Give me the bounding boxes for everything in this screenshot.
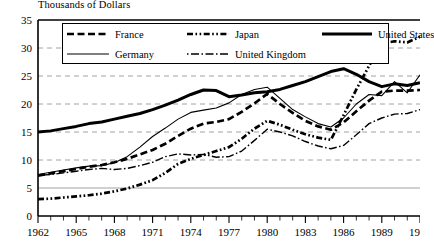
legend-item-united-kingdom[interactable]: United Kingdom <box>186 49 321 60</box>
y-tick-label: 20 <box>21 98 33 110</box>
y-tick-labels: 05101520253035 <box>21 14 33 222</box>
y-tick-label: 35 <box>21 14 33 26</box>
x-tick-label: 1968 <box>103 226 126 238</box>
legend-item-germany[interactable]: Germany <box>66 49 186 60</box>
legend-label-japan: Japan <box>235 29 259 40</box>
x-tick-label: 1986 <box>333 226 356 238</box>
legend-item-united-states[interactable]: United States <box>321 29 434 40</box>
x-tick-labels: 1962196519681971197419771980198319861989… <box>27 226 420 238</box>
japan-key <box>186 29 230 39</box>
united-kingdom-key <box>186 49 230 59</box>
x-tick-label: 1977 <box>218 226 241 238</box>
legend-label-france: France <box>115 29 144 40</box>
y-tick-label: 5 <box>27 182 33 194</box>
legend-item-japan[interactable]: Japan <box>186 29 321 40</box>
x-tick-label: 1962 <box>27 226 49 238</box>
france-key <box>66 29 110 39</box>
legend-label-germany: Germany <box>115 49 154 60</box>
x-tick-marks <box>38 216 420 223</box>
germany-key <box>66 49 110 59</box>
x-tick-label: 1983 <box>294 226 317 238</box>
y-tick-label: 10 <box>21 154 33 166</box>
y-tick-label: 0 <box>27 210 33 222</box>
x-tick-label: 1989 <box>371 226 394 238</box>
x-tick-label: 1965 <box>65 226 88 238</box>
x-tick-label: 1980 <box>256 226 279 238</box>
united-states-key <box>321 29 373 39</box>
x-tick-label: 1974 <box>180 226 203 238</box>
legend: France Japan United States Germany Unite… <box>62 23 389 64</box>
legend-label-united-kingdom: United Kingdom <box>235 49 306 60</box>
legend-item-france[interactable]: France <box>66 29 186 40</box>
x-tick-label: 1971 <box>142 226 164 238</box>
y-tick-label: 30 <box>21 42 33 54</box>
y-tick-label: 15 <box>21 126 33 138</box>
legend-label-united-states: United States <box>378 29 434 40</box>
y-tick-label: 25 <box>21 70 33 82</box>
x-tick-label: 1992 <box>409 226 420 238</box>
